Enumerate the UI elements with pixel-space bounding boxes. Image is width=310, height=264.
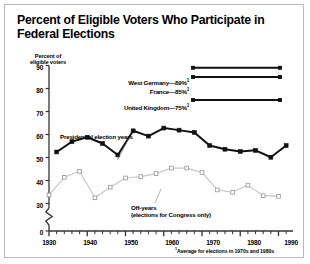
chart-figure: Percent of Eligible Voters Who Participa… bbox=[4, 4, 304, 258]
data-point-marker[interactable] bbox=[78, 169, 82, 173]
data-point-marker[interactable] bbox=[170, 166, 174, 170]
data-point-marker[interactable] bbox=[85, 135, 89, 139]
data-point-marker[interactable] bbox=[261, 194, 265, 198]
data-point-marker[interactable] bbox=[62, 175, 66, 179]
data-point-marker[interactable] bbox=[131, 129, 135, 133]
data-point-marker[interactable] bbox=[231, 190, 235, 194]
data-point-marker[interactable] bbox=[154, 172, 158, 176]
data-point-marker[interactable] bbox=[215, 188, 219, 192]
data-point-marker[interactable] bbox=[162, 126, 166, 130]
data-point-marker[interactable] bbox=[108, 185, 112, 189]
data-point-marker[interactable] bbox=[246, 183, 250, 187]
series-line-off-years bbox=[49, 168, 279, 198]
data-point-marker[interactable] bbox=[93, 196, 97, 200]
reference-line-marker-united-kingdom bbox=[278, 98, 282, 102]
plot-svg bbox=[5, 5, 305, 259]
data-point-marker[interactable] bbox=[284, 144, 288, 148]
series-line-presidential bbox=[57, 128, 287, 157]
reference-line-marker-france bbox=[191, 75, 195, 79]
reference-line-marker-france bbox=[278, 75, 282, 79]
data-point-marker[interactable] bbox=[277, 195, 281, 199]
reference-line-marker-united-kingdom bbox=[191, 98, 195, 102]
data-point-marker[interactable] bbox=[269, 155, 273, 159]
data-point-marker[interactable] bbox=[238, 150, 242, 154]
data-point-marker[interactable] bbox=[223, 147, 227, 151]
data-point-marker[interactable] bbox=[254, 148, 258, 152]
data-point-marker[interactable] bbox=[70, 140, 74, 144]
y-axis-break bbox=[46, 208, 52, 231]
data-point-marker[interactable] bbox=[185, 166, 189, 170]
data-point-marker[interactable] bbox=[177, 128, 181, 132]
reference-line-marker-west-germany bbox=[191, 66, 195, 70]
data-point-marker[interactable] bbox=[147, 134, 151, 138]
reference-line-marker-west-germany bbox=[278, 66, 282, 70]
annotation-leader-offyears bbox=[155, 189, 161, 203]
data-point-marker[interactable] bbox=[208, 144, 212, 148]
annotation-leader-presidential bbox=[118, 140, 129, 160]
data-point-marker[interactable] bbox=[139, 175, 143, 179]
data-point-marker[interactable] bbox=[192, 130, 196, 134]
data-point-marker[interactable] bbox=[124, 176, 128, 180]
data-point-marker[interactable] bbox=[47, 193, 51, 197]
data-point-marker[interactable] bbox=[200, 171, 204, 175]
data-point-marker[interactable] bbox=[55, 150, 59, 154]
data-point-marker[interactable] bbox=[101, 142, 105, 146]
